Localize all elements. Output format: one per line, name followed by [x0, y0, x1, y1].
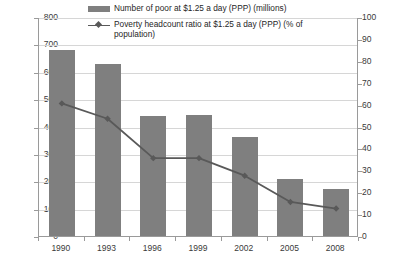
x-axis-tick-mark — [358, 237, 359, 241]
right-axis-tick-label: 100 — [362, 13, 388, 22]
x-axis-tick-label: 1993 — [84, 244, 130, 253]
x-axis-tick-mark — [175, 237, 176, 241]
x-axis-tick-mark — [221, 237, 222, 241]
x-axis-tick-mark — [84, 237, 85, 241]
legend-item-bars: Number of poor at $1.25 a day (PPP) (mil… — [88, 3, 316, 15]
plot-area — [38, 18, 358, 237]
x-axis-tick-label: 1996 — [129, 244, 175, 253]
x-axis-tick-label: 1990 — [38, 244, 84, 253]
x-axis-tick-mark — [38, 237, 39, 241]
x-axis-tick-label: 1999 — [175, 244, 221, 253]
x-axis-tick-label: 2008 — [312, 244, 358, 253]
legend-line-marker-icon — [88, 20, 110, 31]
right-axis-tick-label: 60 — [362, 101, 388, 110]
legend-item-line: Poverty headcount ratio at $1.25 a day (… — [88, 19, 316, 40]
x-axis-tick-mark — [312, 237, 313, 241]
line-marker-1999 — [196, 155, 202, 161]
right-axis-tick-label: 20 — [362, 188, 388, 197]
x-axis-tick-label: 2005 — [267, 244, 313, 253]
legend-label-bars: Number of poor at $1.25 a day (PPP) (mil… — [114, 3, 286, 13]
right-axis-tick-label: 40 — [362, 144, 388, 153]
line-series — [39, 18, 359, 237]
x-axis-tick-mark — [267, 237, 268, 241]
chart-container: 0100200300400500600700800 01020304050607… — [0, 0, 393, 267]
line-marker-1990 — [59, 100, 65, 106]
legend-bar-swatch-icon — [88, 4, 110, 15]
right-axis-tick-label: 70 — [362, 79, 388, 88]
line-marker-2008 — [333, 205, 339, 211]
legend-label-line: Poverty headcount ratio at $1.25 a day (… — [114, 19, 314, 40]
right-axis-tick-label: 50 — [362, 123, 388, 132]
right-axis-tick-label: 30 — [362, 166, 388, 175]
x-axis-tick-mark — [129, 237, 130, 241]
right-axis-tick-label: 80 — [362, 57, 388, 66]
chart-legend: Number of poor at $1.25 a day (PPP) (mil… — [88, 3, 316, 44]
right-axis-tick-label: 0 — [362, 232, 388, 241]
right-axis-tick-label: 10 — [362, 210, 388, 219]
x-axis-tick-label: 2002 — [221, 244, 267, 253]
right-axis-tick-label: 90 — [362, 35, 388, 44]
